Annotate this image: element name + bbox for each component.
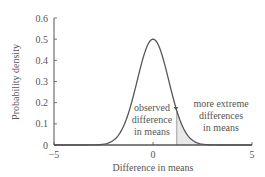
svg-text:0.6: 0.6 bbox=[36, 13, 49, 24]
arrow-icon bbox=[174, 107, 179, 110]
svg-text:0.5: 0.5 bbox=[36, 34, 49, 45]
svg-text:in means: in means bbox=[203, 122, 239, 133]
svg-text:differences: differences bbox=[199, 110, 243, 121]
svg-text:0: 0 bbox=[151, 149, 156, 160]
annotation-more-extreme: more extreme differences in means bbox=[193, 98, 249, 133]
svg-text:−5: −5 bbox=[49, 149, 60, 160]
svg-text:observed: observed bbox=[134, 102, 170, 113]
svg-text:0: 0 bbox=[43, 140, 48, 151]
y-axis-label: Probability density bbox=[10, 44, 21, 120]
svg-text:0.3: 0.3 bbox=[36, 76, 49, 87]
density-chart: 00.10.20.30.40.50.6 −505 Probability den… bbox=[0, 0, 265, 177]
svg-text:0.4: 0.4 bbox=[36, 55, 49, 66]
svg-text:5: 5 bbox=[250, 149, 255, 160]
svg-text:difference: difference bbox=[132, 114, 173, 125]
annotation-observed: observed difference in means bbox=[132, 102, 173, 137]
svg-text:0.1: 0.1 bbox=[36, 118, 49, 129]
svg-text:0.2: 0.2 bbox=[36, 97, 49, 108]
svg-text:in means: in means bbox=[134, 126, 170, 137]
svg-text:more extreme: more extreme bbox=[193, 98, 249, 109]
x-axis-label: Difference in means bbox=[113, 162, 194, 173]
